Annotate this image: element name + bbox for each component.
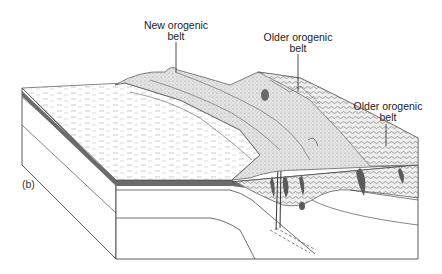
- label-new-orogenic-belt: New orogenic belt: [136, 20, 216, 42]
- label-older-orogenic-belt-1: Older orogenic belt: [254, 32, 342, 54]
- panel-label: (b): [22, 178, 35, 190]
- label-line2: belt: [254, 43, 342, 54]
- block-diagram: [0, 0, 442, 274]
- label-older-orogenic-belt-2: Older orogenic belt: [344, 101, 432, 123]
- label-line2: belt: [344, 112, 432, 123]
- label-line2: belt: [136, 31, 216, 42]
